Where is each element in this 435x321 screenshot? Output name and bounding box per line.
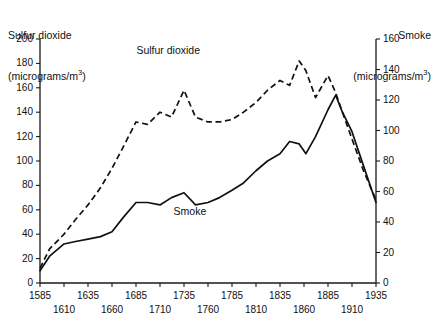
- series-line-sulfur-dioxide: [40, 61, 376, 268]
- pollution-line-chart: Sulfur dioxide (micrograms/m3) Smoke (mi…: [0, 0, 435, 321]
- plot-area: [0, 0, 435, 321]
